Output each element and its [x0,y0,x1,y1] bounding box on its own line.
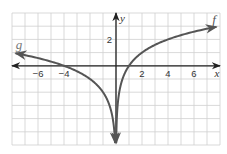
curve-labels: fg [16,12,218,52]
curve-g [16,53,116,143]
curve-f [116,27,216,143]
label-g: g [16,37,23,52]
label-f: f [212,12,218,27]
x-axis-label: x [214,67,220,79]
x-tick-label: −6 [33,68,44,79]
y-tick-label: 2 [107,34,112,45]
x-tick-label: −4 [59,68,70,79]
graph: −6−42462xy fg [0,0,227,154]
y-axis-label: y [119,12,125,24]
x-tick-label: 2 [139,68,144,79]
x-tick-label: 4 [165,68,170,79]
x-tick-label: 6 [191,68,196,79]
